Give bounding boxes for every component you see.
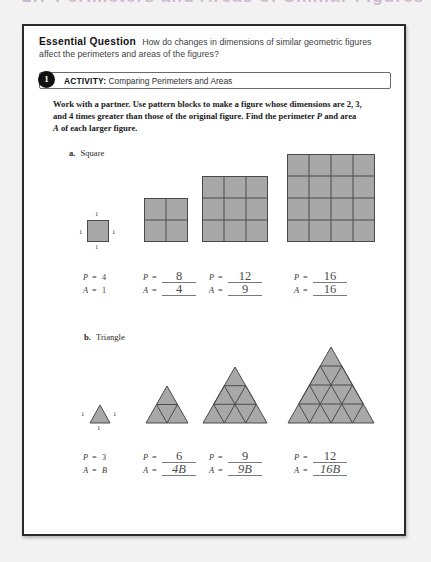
section-letter-b: b. [84,332,91,342]
a-symbol: A [209,286,218,295]
triangle-svg-3 [202,366,268,424]
instructions-line-3-pre: perimeter [279,111,317,121]
triangle-figure-1 [89,404,111,424]
instructions-line-3-post: of each larger figure. [59,123,138,133]
equals: = [303,466,313,475]
triangle-figure-3 [202,366,268,424]
equals: = [92,286,102,295]
activity-number-badge: 1 [38,71,55,88]
triangle-svg-4 [287,346,375,424]
activity-label: ACTIVITY: [64,76,106,86]
equals: = [303,286,313,295]
square-answer-3[interactable]: P=12 A=9 [209,266,262,292]
chapter-header: 2.7 Perimeters and Areas of Similar Figu… [0,0,431,6]
square-svg-4x4 [287,154,375,242]
a-symbol: A [83,286,92,295]
square-answer-4-perimeter[interactable]: P=16 [294,266,347,279]
triangle-unit-label-bottom: 1 [97,424,100,431]
a-symbol: A [143,286,152,295]
page-inner: Essential QuestionHow do changes in dime… [39,36,391,480]
square-answer-4-area[interactable]: A=16 [294,279,347,292]
activity-bar: 1 ACTIVITY: Comparing Perimeters and Are… [39,72,391,89]
square-figure-2 [144,198,188,242]
square-answer-1-area: A=1 [83,279,106,292]
triangle-svg-2 [145,385,189,424]
a-value-blank[interactable]: 4 [162,283,196,296]
triangle-figure-2 [145,385,189,424]
square-svg-1x1 [87,220,109,242]
chapter-header-text: 2.7 Perimeters and Areas of Similar Figu… [0,0,431,6]
square-answer-2-perimeter[interactable]: P=8 [143,266,196,279]
a-value-blank[interactable]: 9B [228,463,262,476]
page-content-box: Essential QuestionHow do changes in dime… [22,24,406,536]
triangle-answer-1: P=3 A=B [83,446,107,472]
square-unit-label-right: 1 [112,228,115,235]
instructions: Work with a partner. Use pattern blocks … [53,98,363,135]
equals: = [152,466,162,475]
a-symbol: A [294,286,303,295]
square-answer-3-area[interactable]: A=9 [209,279,262,292]
triangle-svg-1 [89,404,111,424]
triangle-unit-label-right: 1 [113,410,116,417]
essential-question: Essential QuestionHow do changes in dime… [39,36,391,61]
triangle-answer-1-perimeter: P=3 [83,446,107,459]
square-unit-label-bottom: 1 [95,243,98,250]
square-answers-row: P=4 A=1 P=8 A=4 P=12 A=9 P=16 [39,266,391,300]
instructions-line-3-mid: and area [322,111,356,121]
triangle-unit-label-left: 1 [81,410,84,417]
triangle-answer-1-area: A=B [83,459,107,472]
triangle-answer-4[interactable]: P=12 A=16B [294,446,347,472]
square-answer-1: P=4 A=1 [83,266,106,292]
a-value-blank[interactable]: 16 [313,283,347,296]
triangle-answer-2-perimeter[interactable]: P=6 [143,446,196,459]
section-name-square: Square [80,148,104,158]
square-unit-label-top: 1 [95,210,98,217]
square-svg-2x2 [144,198,188,242]
instructions-line-1: Work with a partner. Use pattern blocks … [53,99,331,109]
a-value: 1 [102,286,106,295]
triangle-answer-3-perimeter[interactable]: P=9 [209,446,262,459]
triangle-answer-2[interactable]: P=6 A=4B [143,446,196,472]
triangle-answer-4-perimeter[interactable]: P=12 [294,446,347,459]
section-letter-a: a. [69,148,75,158]
triangle-answer-2-area[interactable]: A=4B [143,459,196,472]
triangle-figure-4 [287,346,375,424]
triangle-answers-row: P=3 A=B P=6 A=4B P=9 A=9B P=12 [39,446,391,480]
essential-question-label: Essential Question [39,36,136,47]
square-figures-row: 1 1 1 1 [39,160,391,260]
equals: = [218,466,228,475]
square-answer-1-perimeter: P=4 [83,266,106,279]
equals: = [218,286,228,295]
activity-heading: ACTIVITY: Comparing Perimeters and Areas [64,73,232,90]
equals: = [152,286,162,295]
square-svg-3x3 [202,176,268,242]
a-symbol: A [294,466,303,475]
a-value-blank[interactable]: 16B [313,463,347,476]
square-answer-3-perimeter[interactable]: P=12 [209,266,262,279]
square-figure-3 [202,176,268,242]
equals: = [92,466,102,475]
square-answer-2[interactable]: P=8 A=4 [143,266,196,292]
a-value: B [102,466,107,475]
triangle-answer-3[interactable]: P=9 A=9B [209,446,262,472]
a-symbol: A [83,466,92,475]
section-label-triangle: b.Triangle [84,332,391,342]
a-symbol: A [143,466,152,475]
square-figure-4 [287,154,375,242]
square-answer-4[interactable]: P=16 A=16 [294,266,347,292]
a-symbol: A [209,466,218,475]
activity-title: Comparing Perimeters and Areas [108,76,232,86]
square-figure-1 [87,220,109,242]
triangle-answer-3-area[interactable]: A=9B [209,459,262,472]
square-answer-2-area[interactable]: A=4 [143,279,196,292]
triangle-answer-4-area[interactable]: A=16B [294,459,347,472]
section-name-triangle: Triangle [96,332,125,342]
square-unit-label-left: 1 [79,228,82,235]
triangle-figures-row: 1 1 1 [39,344,391,440]
a-value-blank[interactable]: 9 [228,283,262,296]
a-value-blank[interactable]: 4B [162,463,196,476]
